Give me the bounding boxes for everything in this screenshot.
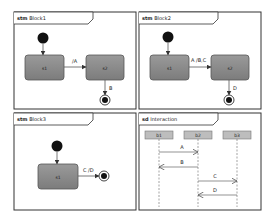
transition-label: D — [233, 85, 237, 91]
svg-text:b3: b3 — [234, 133, 240, 138]
transition-label: /A — [72, 58, 78, 64]
final-state — [100, 95, 110, 105]
diagram-title: stm Block3 — [17, 116, 46, 122]
diagram-title: stm Block2 — [142, 15, 171, 21]
initial-state — [38, 33, 49, 44]
svg-text:s2: s2 — [227, 66, 232, 71]
lifeline-b3[interactable]: b3 — [223, 131, 251, 139]
svg-text:b2: b2 — [195, 133, 201, 138]
svg-text:s1: s1 — [167, 66, 172, 71]
state-s1[interactable]: s1 — [38, 164, 78, 189]
final-state — [99, 171, 109, 181]
stm-block1-diagram: stm Block1 s1 s2 /A B — [14, 12, 136, 109]
initial-state — [52, 141, 63, 152]
final-state — [224, 95, 234, 105]
lifeline-b2[interactable]: b2 — [184, 131, 212, 139]
state-s2[interactable]: s2 — [86, 55, 124, 80]
svg-text:b1: b1 — [156, 133, 162, 138]
transition-label: B — [109, 85, 113, 91]
state-s1[interactable]: s1 — [150, 55, 189, 80]
svg-text:s1: s1 — [42, 66, 47, 71]
svg-text:B: B — [180, 159, 184, 165]
state-s2[interactable]: s2 — [211, 55, 249, 80]
svg-text:s2: s2 — [102, 66, 107, 71]
diagram-title: sd Interaction — [142, 116, 177, 122]
sd-interaction-diagram: sd Interaction b1 b2 b3 A B C — [139, 113, 261, 210]
lifeline-b1[interactable]: b1 — [145, 131, 173, 139]
svg-text:D: D — [213, 187, 217, 193]
diagram-frame — [139, 113, 261, 210]
diagram-title: stm Block1 — [17, 15, 46, 21]
svg-text:A: A — [180, 144, 184, 150]
svg-text:s1: s1 — [55, 175, 60, 180]
diagram-frame — [14, 113, 136, 210]
state-s1[interactable]: s1 — [25, 55, 64, 80]
stm-block2-diagram: stm Block2 s1 s2 A /B,C D — [139, 12, 261, 109]
svg-text:C: C — [213, 173, 217, 179]
initial-state — [163, 32, 174, 43]
transition-label: C /D — [83, 167, 94, 173]
stm-block3-diagram: stm Block3 s1 C /D — [14, 113, 136, 210]
transition-label: A /B,C — [191, 57, 207, 63]
